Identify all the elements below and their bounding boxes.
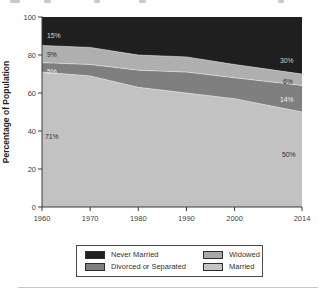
never-married-swatch [85,251,105,259]
legend-label: Married [229,263,254,271]
percent-label: 9% [47,51,57,58]
x-tick-label: 2000 [226,214,243,223]
x-tick-label: 2014 [294,214,311,223]
y-tick-label: 60 [28,89,36,98]
y-tick-label: 40 [28,127,36,136]
screenshot-stage: 020406080100196019701980199020002014Perc… [0,0,319,290]
y-tick-label: 100 [23,13,36,22]
percent-label: 50% [282,151,296,158]
divorced-or-separated-swatch [85,263,105,271]
married-swatch [203,263,223,271]
percent-label: 5% [47,68,57,75]
percent-label: 30% [280,57,294,64]
legend-item-divorced-or-separated: Divorced or Separated [85,263,203,271]
legend-item-married: Married [203,263,260,271]
y-axis-title: Percentage of Population [1,61,11,164]
bottom-divider-line [18,287,318,288]
x-tick-label: 1990 [178,214,195,223]
stacked-area-chart: 020406080100196019701980199020002014Perc… [0,0,319,232]
x-tick-label: 1980 [130,214,147,223]
chart-legend: Never Married Widowed Divorced or Separa… [76,245,263,277]
legend-label: Divorced or Separated [111,263,186,271]
legend-label: Never Married [111,251,159,259]
legend-item-never-married: Never Married [85,251,203,259]
y-tick-label: 20 [28,165,36,174]
y-tick-label: 0 [32,203,36,212]
percent-label: 15% [47,32,61,39]
percent-label: 71% [45,133,59,140]
widowed-swatch [203,251,223,259]
x-tick-label: 1970 [82,214,99,223]
y-tick-label: 80 [28,51,36,60]
x-tick-label: 1960 [34,214,51,223]
legend-item-widowed: Widowed [203,251,260,259]
legend-label: Widowed [229,251,260,259]
percent-label: 6% [283,78,293,85]
percent-label: 14% [280,96,294,103]
